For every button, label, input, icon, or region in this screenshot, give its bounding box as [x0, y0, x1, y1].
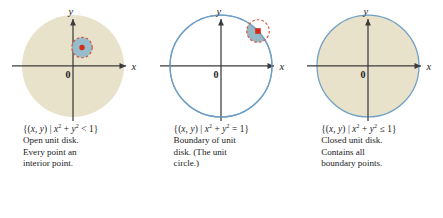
x-axis-label: x [426, 61, 432, 72]
formula-set-bar: ) | [195, 124, 205, 134]
formula-plus: + [61, 124, 71, 134]
formula-set-bar: ) | [44, 124, 54, 134]
y-axis-label: y [67, 7, 73, 18]
formula-relation: < 1} [79, 124, 99, 134]
caption-closed-unit-disk: {(x, y) | x2 + y2 ≤ 1} Closed unit disk.… [295, 124, 443, 170]
plot-closed-unit-disk: x y 0 [295, 0, 443, 122]
origin-label: 0 [213, 69, 218, 80]
interior-point-marker [79, 45, 84, 50]
y-axis-label: y [363, 7, 369, 18]
x-axis-label: x [278, 61, 284, 72]
origin-label: 0 [361, 69, 366, 80]
formula-set-vars: x, y [181, 124, 194, 134]
formula-set-bar: ) | [342, 124, 352, 134]
formula-plus: + [212, 124, 222, 134]
panel-closed-unit-disk: x y 0 {(x, y) | x2 + y2 ≤ 1} Closed unit… [295, 0, 443, 218]
plot-unit-circle-boundary: x y 0 [148, 0, 296, 122]
formula-relation: ≤ 1} [377, 124, 396, 134]
formula-set-vars: x, y [31, 124, 44, 134]
y-axis-arrowhead [218, 19, 224, 25]
formula-plus: + [360, 124, 370, 134]
formula-set-open: {( [321, 124, 329, 134]
formula-set-vars: x, y [329, 124, 342, 134]
caption-formula: {(x, y) | x2 + y2 ≤ 1} [321, 124, 443, 135]
panel-unit-circle-boundary: x y 0 {(x, y) | x2 + y2 = 1} Boundary of… [148, 0, 296, 218]
caption-line-1: Closed unit disk. [321, 135, 443, 146]
origin-label: 0 [65, 69, 70, 80]
caption-open-unit-disk: {(x, y) | x2 + y2 < 1} Open unit disk. E… [0, 124, 171, 170]
plot-open-unit-disk: x y 0 [0, 0, 148, 122]
boundary-point-marker [255, 28, 261, 34]
unit-disk-figure: x y 0 {(x, y) | x2 + y2 < 1} Open unit d… [0, 0, 443, 218]
y-axis-label: y [215, 7, 221, 18]
x-axis-label: x [130, 61, 136, 72]
panel-open-unit-disk: x y 0 {(x, y) | x2 + y2 < 1} Open unit d… [0, 0, 148, 218]
formula-relation: = 1} [230, 124, 250, 134]
caption-line-2: Contains all [321, 147, 443, 158]
x-axis-arrowhead [267, 63, 273, 69]
caption-line-3: boundary points. [321, 158, 443, 169]
formula-set-open: {( [23, 124, 31, 134]
